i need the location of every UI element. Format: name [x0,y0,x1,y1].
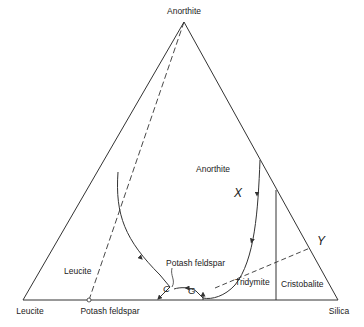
base-label-potash-feldspar: Potash feldspar [80,306,139,316]
field-label-tridymite: Tridymite [235,277,270,287]
vertex-label-silica: Silica [329,306,350,316]
point-label-y: Y [317,234,326,248]
vertex-label-leucite: Leucite [16,306,44,316]
point-label-c: C [163,283,170,294]
ternary-diagram: Anorthite Leucite Silica Potash feldspar… [0,0,364,327]
leucite-anorthite-boundary [117,172,170,287]
field-label-potash-feldspar: Potash feldspar [166,258,225,268]
vertex-label-anorthite: Anorthite [167,6,201,16]
potash-feldspar-point [87,298,91,302]
point-label-g: G [188,285,195,296]
field-label-leucite: Leucite [64,266,92,276]
field-label-cristobalite: Cristobalite [281,279,324,289]
field-label-anorthite: Anorthite [196,164,230,174]
point-label-x: X [233,186,243,200]
